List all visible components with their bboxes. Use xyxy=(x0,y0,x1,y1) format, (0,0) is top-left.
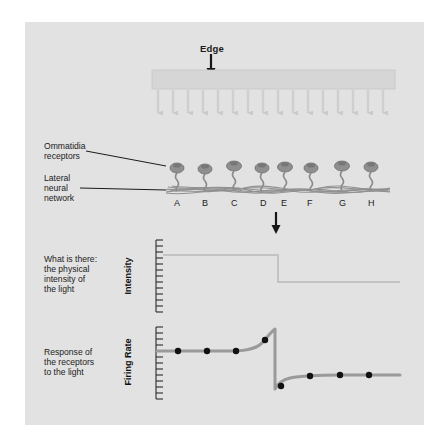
data-point-b xyxy=(204,348,210,354)
data-point-g xyxy=(337,372,343,378)
receptor-c xyxy=(227,161,242,190)
firing-rate-y-axis xyxy=(156,327,163,399)
annotation-leader-lines xyxy=(80,151,166,190)
light-bar xyxy=(152,70,395,89)
mach-band-figure: Edge Intense Light Dim Light Ommatidia r… xyxy=(0,0,446,444)
data-point-c xyxy=(233,348,239,354)
data-point-h xyxy=(366,372,372,378)
receptor-e xyxy=(278,162,293,190)
data-point-f xyxy=(307,373,313,379)
receptor-h xyxy=(364,162,378,190)
intensity-chart xyxy=(156,240,400,312)
data-point-d xyxy=(262,337,268,343)
receptor-f xyxy=(304,163,318,191)
firing-rate-curve xyxy=(157,329,400,389)
edge-arrow-bottom xyxy=(272,212,281,234)
figure-vector-layer xyxy=(0,0,446,444)
lateral-neural-network xyxy=(166,186,390,194)
intensity-y-axis xyxy=(156,240,163,312)
firing-rate-chart xyxy=(156,327,400,399)
data-point-e xyxy=(278,383,284,389)
data-point-a xyxy=(175,348,181,354)
light-rays xyxy=(158,90,383,113)
intensity-step-curve xyxy=(163,255,400,282)
